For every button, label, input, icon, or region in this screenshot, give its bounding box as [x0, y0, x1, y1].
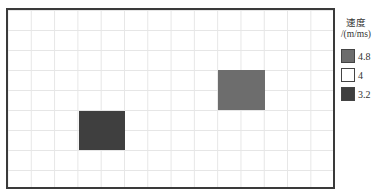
legend-label: 4.8: [358, 51, 371, 62]
legend-swatch: [341, 87, 355, 101]
legend-swatch: [341, 49, 355, 63]
legend-item-3.2: 3.2: [341, 87, 371, 101]
legend-label: 3.2: [358, 89, 371, 100]
speed-cell-dark: [79, 111, 125, 150]
legend: 速度 /(m/ms) 4.8 4 3.2: [336, 18, 378, 40]
speed-cell-medium: [218, 70, 265, 110]
legend-item-4.8: 4.8: [341, 49, 371, 63]
legend-title-label: 速度: [334, 18, 378, 29]
legend-item-4: 4: [341, 68, 363, 82]
legend-title: 速度 /(m/ms): [334, 18, 378, 40]
grid-frame: [6, 8, 335, 189]
legend-title-unit: /(m/ms): [334, 29, 378, 40]
legend-label: 4: [358, 70, 363, 81]
legend-swatch: [341, 68, 355, 82]
